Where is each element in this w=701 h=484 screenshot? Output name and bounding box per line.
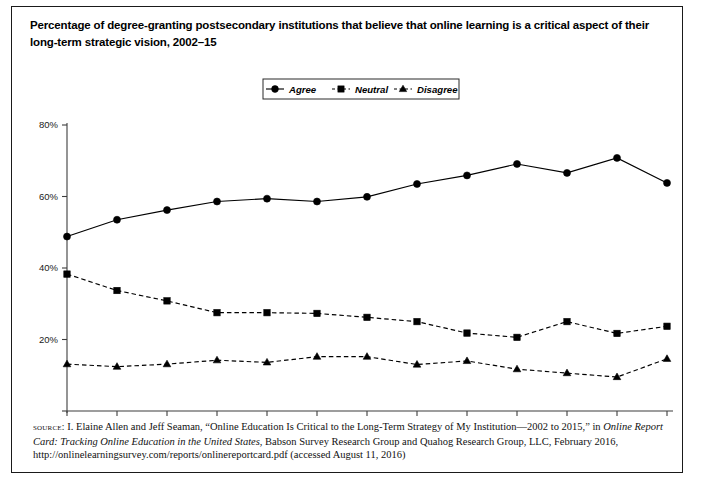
data-point-neutral — [214, 309, 220, 315]
legend-marker-agree — [272, 86, 279, 93]
legend-label-neutral: Neutral — [355, 84, 388, 95]
data-point-disagree — [513, 365, 521, 372]
data-point-neutral — [614, 330, 620, 336]
legend-marker-neutral — [338, 86, 344, 92]
data-point-neutral — [264, 309, 270, 315]
data-point-disagree — [363, 353, 371, 360]
data-point-agree — [614, 154, 621, 161]
legend-label-disagree: Disagree — [417, 84, 458, 95]
data-point-neutral — [114, 287, 120, 293]
source-note: source: I. Elaine Allen and Jeff Seaman,… — [33, 420, 673, 462]
line-chart: 20%40%60%80%Fall 2002Fall 2003Fall 2004F… — [12, 65, 681, 420]
legend-label-agree: Agree — [288, 84, 317, 95]
data-point-neutral — [364, 314, 370, 320]
data-point-agree — [514, 160, 521, 167]
data-point-agree — [164, 207, 171, 214]
data-point-neutral — [414, 318, 420, 324]
data-point-agree — [264, 195, 271, 202]
source-text-part1: I. Elaine Allen and Jeff Seaman, “Online… — [65, 421, 604, 432]
y-axis-tick-label: 40% — [39, 262, 59, 273]
y-axis-tick-label: 60% — [39, 191, 59, 202]
data-point-agree — [114, 216, 121, 223]
source-label: source: — [33, 422, 65, 432]
data-point-disagree — [213, 356, 221, 363]
data-point-neutral — [164, 298, 170, 304]
data-point-disagree — [63, 360, 71, 367]
data-point-disagree — [313, 353, 321, 360]
data-point-neutral — [514, 334, 520, 340]
data-point-agree — [314, 198, 321, 205]
y-axis-tick-label: 80% — [39, 119, 59, 130]
series-line-neutral — [67, 274, 667, 337]
data-point-agree — [64, 233, 71, 240]
data-point-disagree — [463, 357, 471, 364]
data-point-agree — [414, 180, 421, 187]
chart-svg: 20%40%60%80%Fall 2002Fall 2003Fall 2004F… — [12, 65, 681, 420]
data-point-agree — [214, 198, 221, 205]
data-point-agree — [364, 193, 371, 200]
data-point-agree — [464, 172, 471, 179]
y-axis-tick-label: 20% — [39, 334, 59, 345]
data-point-neutral — [664, 323, 670, 329]
data-point-agree — [664, 179, 671, 186]
page-title: Percentage of degree-granting postsecond… — [30, 17, 660, 51]
series-line-disagree — [67, 357, 667, 377]
data-point-neutral — [464, 330, 470, 336]
data-point-neutral — [564, 318, 570, 324]
data-point-disagree — [563, 369, 571, 376]
data-point-agree — [564, 169, 571, 176]
data-point-disagree — [163, 360, 171, 367]
data-point-disagree — [663, 355, 671, 362]
data-point-neutral — [314, 310, 320, 316]
figure-frame: Percentage of degree-granting postsecond… — [11, 6, 683, 473]
data-point-neutral — [64, 271, 70, 277]
